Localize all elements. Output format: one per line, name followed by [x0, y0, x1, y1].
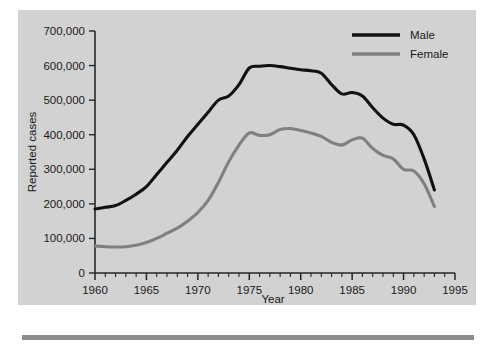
y-axis-title: Reported cases — [26, 111, 38, 192]
y-tick-label: 700,000 — [43, 25, 85, 37]
x-axis-major-ticks — [95, 273, 455, 280]
chart-panel: 0100,000200,000300,000400,000500,000600,… — [18, 10, 476, 305]
y-tick-label: 400,000 — [43, 129, 85, 141]
x-tick-label: 1980 — [288, 284, 314, 296]
y-tick-label: 500,000 — [43, 94, 85, 106]
y-axis-tick-labels: 0100,000200,000300,000400,000500,000600,… — [43, 25, 85, 279]
legend-label-male: Male — [410, 29, 435, 41]
x-tick-label: 1970 — [185, 284, 211, 296]
x-tick-label: 1960 — [82, 284, 108, 296]
y-tick-label: 200,000 — [43, 198, 85, 210]
legend: Male Female — [352, 29, 448, 60]
figure-container: 0100,000200,000300,000400,000500,000600,… — [0, 0, 495, 347]
x-tick-label: 1975 — [236, 284, 262, 296]
y-tick-label: 300,000 — [43, 163, 85, 175]
y-tick-label: 0 — [79, 267, 85, 279]
legend-label-female: Female — [410, 48, 448, 60]
x-tick-label: 1990 — [391, 284, 417, 296]
x-tick-label: 1985 — [339, 284, 365, 296]
line-chart: 0100,000200,000300,000400,000500,000600,… — [18, 10, 476, 305]
x-tick-label: 1995 — [442, 284, 468, 296]
bottom-horizontal-rule — [22, 335, 474, 340]
y-tick-label: 600,000 — [43, 60, 85, 72]
x-tick-label: 1965 — [134, 284, 160, 296]
data-line-male — [95, 66, 434, 209]
y-tick-label: 100,000 — [43, 232, 85, 244]
x-axis-title: Year — [261, 293, 284, 305]
y-axis-ticks — [89, 31, 95, 273]
